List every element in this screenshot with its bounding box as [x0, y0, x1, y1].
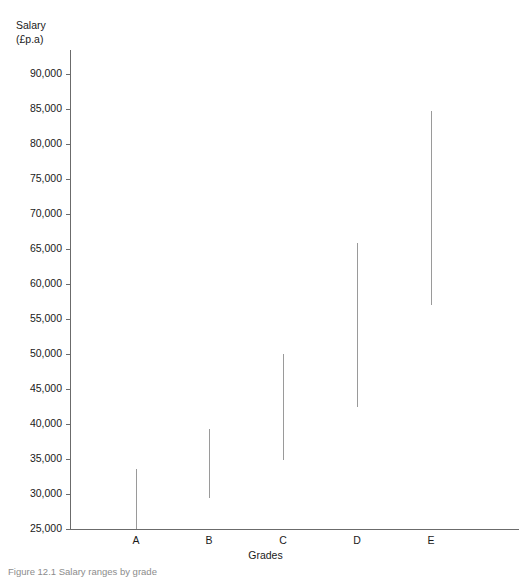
y-axis-tick-label: 60,000 [4, 277, 62, 289]
y-axis-tick-label: 80,000 [4, 137, 62, 149]
y-axis-tick-label: 30,000 [4, 487, 62, 499]
y-axis-tick-label: 40,000 [4, 417, 62, 429]
x-axis-title: Grades [0, 548, 531, 562]
y-axis-tick-label: 90,000 [4, 67, 62, 79]
y-axis-tick-label: 55,000 [4, 312, 62, 324]
y-axis-tick-label: 75,000 [4, 172, 62, 184]
x-axis-category-label-d: D [337, 534, 377, 546]
y-axis-title-line-2: (£p.a) [16, 33, 43, 45]
figure-caption: Figure 12.1 Salary ranges by grade [8, 566, 157, 577]
y-axis-tick-label: 65,000 [4, 242, 62, 254]
y-axis-tick-label: 85,000 [4, 102, 62, 114]
x-axis-category-label-e: E [411, 534, 451, 546]
y-axis-tick-label: 45,000 [4, 382, 62, 394]
x-axis-category-label-b: B [189, 534, 229, 546]
axis-lines [70, 50, 519, 530]
x-axis-category-label-c: C [263, 534, 303, 546]
y-axis-tick-label: 25,000 [4, 522, 62, 534]
range-bars [137, 111, 432, 529]
y-axis-tick-marks [66, 75, 70, 530]
y-axis-title: Salary(£p.a) [16, 18, 46, 46]
y-axis-title-line-1: Salary [16, 19, 46, 31]
y-axis-tick-label: 50,000 [4, 347, 62, 359]
x-axis-category-label-a: A [116, 534, 156, 546]
y-axis-tick-label: 70,000 [4, 207, 62, 219]
y-axis-tick-label: 35,000 [4, 452, 62, 464]
